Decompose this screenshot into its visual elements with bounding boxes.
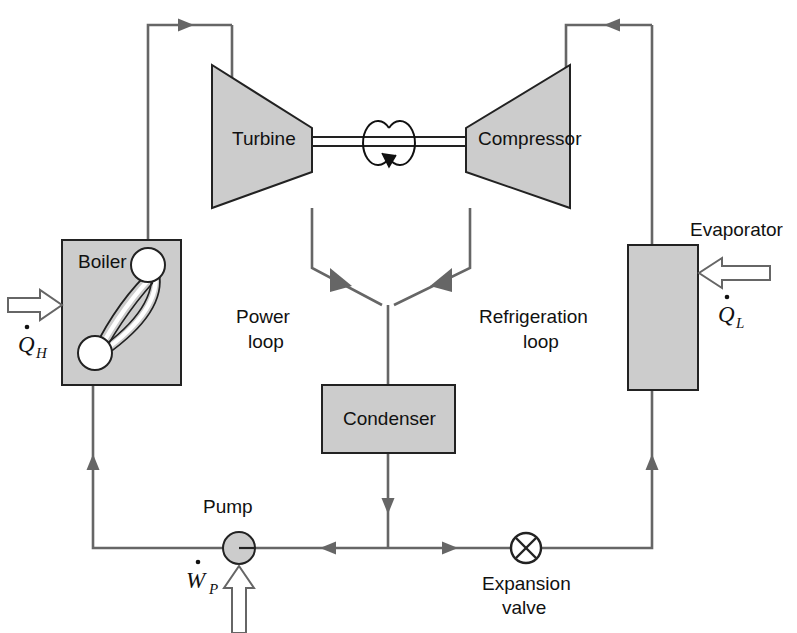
- turbine-component[interactable]: Turbine: [212, 65, 312, 208]
- ql-subscript: L: [735, 315, 744, 331]
- power-loop-line1: Power: [236, 306, 291, 327]
- ql-symbol: Q: [718, 302, 735, 327]
- pipe-tee-to-pump: [254, 542, 388, 555]
- flow-arrow-to-valve: [442, 542, 458, 555]
- pipe-pump-to-boiler: [87, 370, 225, 548]
- heat-in-arrow-ql-icon: [699, 258, 770, 288]
- expansion-valve-label-line1: Expansion: [482, 573, 571, 594]
- flow-arrow-top-left: [178, 19, 194, 32]
- flow-arrow-to-pump: [320, 542, 336, 555]
- flow-arrow-top-right: [604, 19, 620, 32]
- evaporator-label: Evaporator: [690, 219, 784, 240]
- pump-component[interactable]: Pump: [203, 496, 256, 564]
- turbine-label: Turbine: [232, 128, 296, 149]
- wp-symbol-label: W P: [186, 560, 218, 597]
- condenser-label: Condenser: [343, 408, 437, 429]
- flow-arrow-to-boiler: [87, 454, 100, 470]
- boiler-label: Boiler: [78, 251, 127, 272]
- flow-arrow-condenser-out: [382, 498, 395, 514]
- rotating-shaft-icon: [312, 121, 466, 167]
- compressor-label: Compressor: [478, 128, 582, 149]
- flow-arrow-compressor-suction: [430, 268, 452, 292]
- boiler-upper-drum-icon: [131, 248, 165, 282]
- pipe-valve-to-evaporator: [541, 390, 659, 548]
- pipe-condenser-to-tee: [382, 452, 395, 548]
- refrigeration-loop-line1: Refrigeration: [479, 306, 588, 327]
- qh-symbol: Q: [18, 332, 35, 357]
- evaporator-component[interactable]: Evaporator: [628, 219, 784, 390]
- flow-arrow-valve-to-evaporator: [646, 454, 659, 470]
- schematic-canvas: Boiler Q H Turbine Compressor Condenser …: [0, 0, 797, 633]
- heat-in-arrow-qh-icon: [8, 290, 62, 320]
- wp-subscript: P: [208, 581, 218, 597]
- power-loop-label: Power loop: [236, 306, 291, 352]
- pipe-compressor-suction: [394, 208, 470, 305]
- wp-symbol: W: [186, 568, 207, 593]
- qh-subscript: H: [35, 345, 48, 361]
- qh-dot-icon: [25, 325, 30, 330]
- refrigeration-loop-line2: loop: [523, 331, 559, 352]
- power-loop-line2: loop: [248, 331, 284, 352]
- condenser-component[interactable]: Condenser: [322, 385, 455, 453]
- qh-symbol-label: Q H: [18, 325, 48, 361]
- expansion-valve-component[interactable]: Expansion valve: [482, 533, 571, 618]
- work-in-arrow-wp-icon: [224, 566, 254, 633]
- refrigeration-loop-label: Refrigeration loop: [479, 306, 588, 352]
- compressor-component[interactable]: Compressor: [466, 65, 582, 208]
- shaft-rotation-arrow-icon: [382, 153, 396, 167]
- evaporator-body[interactable]: [628, 245, 698, 390]
- ql-symbol-label: Q L: [718, 295, 744, 331]
- pipe-tee-to-valve: [388, 542, 511, 555]
- pump-label: Pump: [203, 496, 253, 517]
- boiler-lower-drum-icon: [78, 336, 112, 370]
- wp-dot-icon: [196, 560, 201, 565]
- expansion-valve-label-line2: valve: [502, 597, 546, 618]
- cycle-diagram: Boiler Q H Turbine Compressor Condenser …: [0, 0, 797, 633]
- boiler-component[interactable]: Boiler: [62, 240, 181, 385]
- pipe-turbine-exhaust: [312, 208, 382, 305]
- ql-dot-icon: [725, 295, 730, 300]
